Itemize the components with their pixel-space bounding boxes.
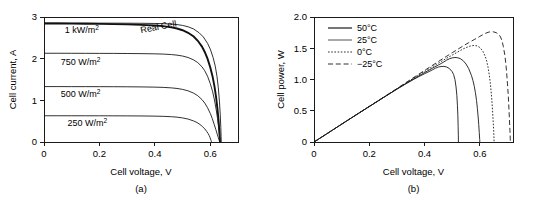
x-tick-label: 0.4 xyxy=(148,148,161,159)
y-tick-label: 0.5 xyxy=(294,105,307,116)
x-tick-label: 0.6 xyxy=(473,148,486,159)
chart-b: 00.20.40.600.51.01.52.0Cell voltage, VCe… xyxy=(270,0,540,201)
x-tick-label: 0.4 xyxy=(418,148,431,159)
panel-caption: (a) xyxy=(135,183,147,194)
legend-label: 0°C xyxy=(357,47,373,57)
x-tick-label: 0.2 xyxy=(363,148,376,159)
series-line xyxy=(314,32,510,142)
legend: 50°C25°C0°C−25°C xyxy=(328,23,383,69)
y-tick-label: 0 xyxy=(32,136,37,147)
series-line xyxy=(314,45,494,142)
x-tick-label: 0.2 xyxy=(93,148,106,159)
legend-label: −25°C xyxy=(357,59,383,69)
x-tick-label: 0 xyxy=(41,148,46,159)
series-line xyxy=(314,66,458,142)
y-axis-title: Cell power, W xyxy=(275,50,286,109)
curve-annotation: 250 W/m2 xyxy=(68,117,108,128)
y-tick-label: 2.0 xyxy=(294,11,307,22)
curve-annotation: 1 kW/m2 xyxy=(65,24,100,35)
y-axis-title: Cell current, A xyxy=(7,49,18,109)
panel-b-power-curves: 00.20.40.600.51.01.52.0Cell voltage, VCe… xyxy=(270,0,540,201)
y-tick-label: 1.0 xyxy=(294,74,307,85)
curve-annotation: 500 W/m2 xyxy=(61,88,101,99)
curve-annotation: Real Cell xyxy=(139,18,177,35)
x-axis-title: Cell voltage, V xyxy=(383,166,445,177)
chart-a: 00.20.40.60123Cell voltage, VCell curren… xyxy=(0,0,270,201)
solar-cell-figure: 00.20.40.60123Cell voltage, VCell curren… xyxy=(0,0,541,201)
curves-group xyxy=(314,32,510,142)
y-tick-label: 1 xyxy=(32,95,37,106)
panel-a-iv-curves: 00.20.40.60123Cell voltage, VCell curren… xyxy=(0,0,270,201)
y-tick-label: 3 xyxy=(32,11,37,22)
y-tick-label: 1.5 xyxy=(294,43,307,54)
legend-label: 50°C xyxy=(357,23,378,33)
legend-label: 25°C xyxy=(357,35,378,45)
x-tick-label: 0.6 xyxy=(204,148,217,159)
y-tick-label: 2 xyxy=(32,53,37,64)
x-axis-title: Cell voltage, V xyxy=(110,166,172,177)
series-line xyxy=(314,58,480,143)
curve-annotation: 750 W/m2 xyxy=(61,56,101,67)
panel-caption: (b) xyxy=(408,183,420,194)
y-tick-label: 0 xyxy=(302,136,307,147)
x-tick-label: 0 xyxy=(311,148,316,159)
